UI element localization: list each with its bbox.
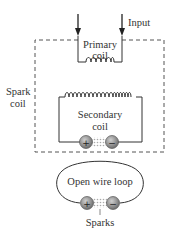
loop-terminals: + −	[81, 197, 120, 210]
open-loop-label: Open wire loop	[67, 176, 132, 187]
svg-text:−: −	[109, 199, 117, 209]
input-label: Input	[128, 17, 150, 28]
svg-text:−: −	[108, 138, 116, 148]
svg-text:+: +	[82, 138, 90, 148]
input-arrows	[75, 14, 125, 36]
primary-coil-label-line1: Primary	[83, 39, 118, 50]
sparks-icon	[93, 198, 107, 208]
svg-text:+: +	[83, 199, 91, 209]
spark-coil-label-line2: coil	[10, 98, 26, 109]
spark-gap-icon	[92, 137, 106, 147]
secondary-coil-label-line2: coil	[92, 121, 108, 132]
spark-coil-label-line1: Spark	[6, 86, 31, 97]
sparks-label: Sparks	[86, 217, 115, 228]
spark-coil-diagram: Input Spark coil Primary coil Secondary …	[0, 0, 175, 237]
secondary-terminals: + −	[80, 136, 119, 149]
primary-coil-label-line2: coil	[92, 50, 108, 61]
secondary-coil-label-line1: Secondary	[78, 109, 123, 120]
